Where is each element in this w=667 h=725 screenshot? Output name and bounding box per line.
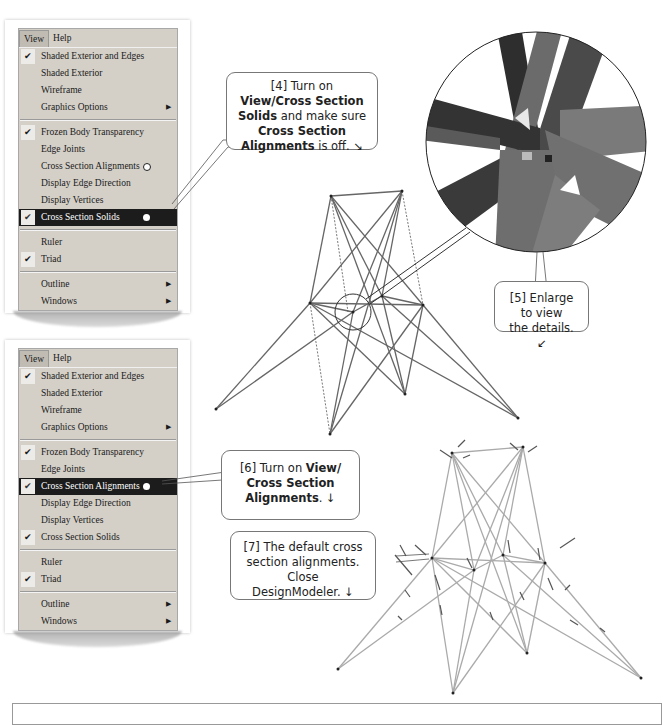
callout-step-7: [7] The default cross section alignments… <box>230 531 376 600</box>
callout-step-6: [6] Turn on View/ Cross Section Alignmen… <box>221 450 360 520</box>
alignment-arrows <box>395 440 605 632</box>
zoomed-detail-view <box>420 20 660 260</box>
wireframe-tower-2 <box>338 447 641 693</box>
callout-step-4: [4] Turn on View/Cross Section Solids an… <box>226 72 378 150</box>
next-section-frame <box>12 703 662 725</box>
callout-step-5: [5] Enlarge to view the details. ↙ <box>494 281 589 332</box>
